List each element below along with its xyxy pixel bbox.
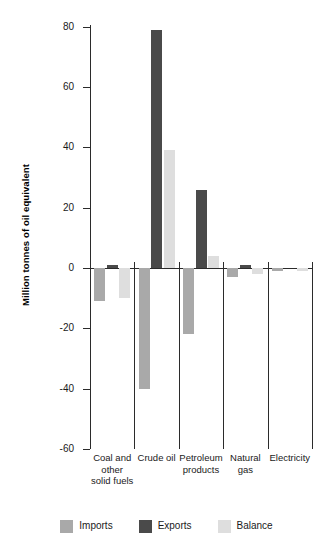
bar-natural-gas-imports bbox=[227, 268, 238, 277]
y-tick-mark bbox=[83, 27, 90, 28]
bar-petroleum-products-balance bbox=[208, 256, 219, 268]
y-tick-mark bbox=[83, 389, 90, 390]
chart-legend: ImportsExportsBalance bbox=[0, 516, 333, 536]
legend-label-imports: Imports bbox=[79, 521, 112, 531]
y-tick-mark bbox=[83, 87, 90, 88]
x-category-label-line: Electricity bbox=[268, 452, 312, 464]
legend-swatch-balance bbox=[218, 520, 231, 533]
legend-label-exports: Exports bbox=[158, 521, 192, 531]
bar-crude-oil-balance bbox=[164, 150, 175, 268]
category-separator bbox=[312, 262, 313, 449]
x-category-label-line: Natural bbox=[223, 452, 267, 464]
y-tick-mark bbox=[83, 147, 90, 148]
y-tick-mark bbox=[83, 328, 90, 329]
y-tick-mark bbox=[83, 449, 90, 450]
bar-crude-oil-imports bbox=[139, 268, 150, 389]
bar-coal-and-other-solid-fuels-exports bbox=[107, 265, 118, 268]
legend-swatch-exports bbox=[139, 520, 152, 533]
y-tick-label: -40 bbox=[30, 384, 74, 394]
legend-item-balance[interactable]: Balance bbox=[218, 520, 273, 533]
bar-natural-gas-balance bbox=[252, 268, 263, 274]
y-tick-mark bbox=[83, 268, 90, 269]
bar-natural-gas-exports bbox=[240, 265, 251, 268]
legend-item-imports[interactable]: Imports bbox=[60, 520, 112, 533]
x-category-label: Crude oil bbox=[134, 452, 178, 464]
y-axis-title: Million tonnes of oil equivalent bbox=[14, 0, 38, 470]
bar-petroleum-products-exports bbox=[196, 190, 207, 268]
bar-electricity-balance bbox=[297, 268, 308, 271]
legend-item-exports[interactable]: Exports bbox=[139, 520, 192, 533]
x-category-label: Naturalgas bbox=[223, 452, 267, 475]
y-axis-title-text: Million tonnes of oil equivalent bbox=[21, 164, 31, 306]
bar-coal-and-other-solid-fuels-balance bbox=[119, 268, 130, 298]
y-tick-label: -60 bbox=[30, 444, 74, 454]
y-tick-label: 60 bbox=[30, 82, 74, 92]
y-tick-label: 0 bbox=[30, 263, 74, 273]
x-category-label-line: products bbox=[179, 464, 223, 476]
bar-coal-and-other-solid-fuels-imports bbox=[94, 268, 105, 301]
x-category-label-line: Crude oil bbox=[134, 452, 178, 464]
legend-swatch-imports bbox=[60, 520, 73, 533]
x-category-label: Coal andothersolid fuels bbox=[90, 452, 134, 487]
x-category-label-line: Coal and bbox=[90, 452, 134, 464]
y-tick-label: -20 bbox=[30, 323, 74, 333]
x-category-label-line: solid fuels bbox=[90, 475, 134, 487]
bar-crude-oil-exports bbox=[151, 30, 162, 268]
x-category-label-line: gas bbox=[223, 464, 267, 476]
y-tick-label: 20 bbox=[30, 203, 74, 213]
x-category-label: Petroleumproducts bbox=[179, 452, 223, 475]
x-category-label-line: other bbox=[90, 464, 134, 476]
y-tick-mark bbox=[83, 208, 90, 209]
x-category-label-line: Petroleum bbox=[179, 452, 223, 464]
legend-label-balance: Balance bbox=[237, 521, 273, 531]
x-category-label: Electricity bbox=[268, 452, 312, 464]
bar-electricity-imports bbox=[272, 268, 283, 271]
y-tick-label: 80 bbox=[30, 22, 74, 32]
y-tick-label: 40 bbox=[30, 142, 74, 152]
bar-chart: Million tonnes of oil equivalent 8060402… bbox=[0, 0, 333, 554]
bar-petroleum-products-imports bbox=[183, 268, 194, 334]
